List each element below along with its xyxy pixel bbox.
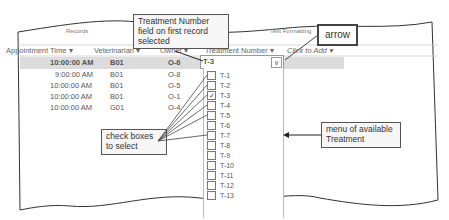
table-row[interactable]: 10:00:00 AM G01 O-4 bbox=[20, 102, 200, 114]
ribbon-group-text-formatting: Text Formatting bbox=[270, 28, 311, 34]
cell-owner: O-8 bbox=[168, 70, 181, 79]
treatment-number-combo[interactable]: T-3 ∨ bbox=[200, 55, 284, 69]
cell-veterinarian: B01 bbox=[110, 58, 124, 67]
list-item-label: T-3 bbox=[220, 92, 230, 99]
checkbox-checked[interactable]: ✓ bbox=[207, 91, 216, 100]
cell-veterinarian: G01 bbox=[110, 103, 124, 112]
checkbox[interactable] bbox=[207, 151, 216, 160]
access-datasheet-figure: Records Text Formatting Appointment Time… bbox=[0, 0, 449, 220]
list-item[interactable]: T-11 bbox=[207, 170, 234, 180]
list-item-label: T-6 bbox=[220, 122, 230, 129]
dropdown-arrow-icon[interactable]: ∨ bbox=[271, 57, 282, 68]
list-item[interactable]: ✓T-3 bbox=[207, 90, 230, 100]
callout-menu: menu of available Treatment bbox=[321, 122, 401, 148]
list-item-label: T-5 bbox=[220, 112, 230, 119]
list-item-label: T-2 bbox=[220, 82, 230, 89]
checkbox[interactable] bbox=[207, 101, 216, 110]
checkbox[interactable] bbox=[207, 81, 216, 90]
cell-owner: O-5 bbox=[168, 81, 181, 90]
cell-appointment-time: 10:00:00 AM bbox=[50, 81, 92, 90]
checkbox[interactable] bbox=[207, 141, 216, 150]
column-header-click-to-add[interactable]: Click to Add ▾ bbox=[287, 46, 333, 55]
cell-veterinarian: B01 bbox=[110, 70, 123, 79]
list-item-label: T-1 bbox=[220, 72, 230, 79]
list-item[interactable]: T-12 bbox=[207, 180, 234, 190]
treatment-menu-list[interactable]: T-1 T-2 ✓T-3 T-4 T-5 T-6 T-7 T-8 T-9 T-1… bbox=[203, 68, 284, 218]
list-item[interactable]: T-6 bbox=[207, 120, 230, 130]
checkbox[interactable] bbox=[207, 191, 216, 200]
list-item-label: T-13 bbox=[220, 192, 234, 199]
list-item[interactable]: T-10 bbox=[207, 160, 234, 170]
column-header-appointment-time[interactable]: Appointment Time ▾ bbox=[6, 46, 73, 55]
list-item-label: T-12 bbox=[220, 182, 234, 189]
list-item-label: T-10 bbox=[220, 162, 234, 169]
checkbox[interactable] bbox=[207, 121, 216, 130]
cell-owner: O-4 bbox=[168, 103, 181, 112]
callout-field-selected: Treatment Number field on first record s… bbox=[133, 14, 229, 49]
callout-arrow: arrow bbox=[317, 24, 358, 46]
list-item[interactable]: T-1 bbox=[207, 70, 230, 80]
cell-appointment-time: 10:00:00 AM bbox=[50, 92, 92, 101]
list-item[interactable]: T-13 bbox=[207, 190, 234, 200]
list-item-label: T-4 bbox=[220, 102, 230, 109]
list-item-label: T-7 bbox=[220, 132, 230, 139]
checkbox[interactable] bbox=[207, 171, 216, 180]
cell-owner: O-1 bbox=[168, 92, 181, 101]
list-item-label: T-9 bbox=[220, 152, 230, 159]
list-item[interactable]: T-5 bbox=[207, 110, 230, 120]
cell-appointment-time: 9:00:00 AM bbox=[55, 70, 93, 79]
ribbon-group-records: Records bbox=[66, 28, 88, 34]
checkbox[interactable] bbox=[207, 161, 216, 170]
list-item[interactable]: T-8 bbox=[207, 140, 230, 150]
checkbox[interactable] bbox=[207, 71, 216, 80]
click-to-add-cell[interactable] bbox=[284, 57, 344, 69]
checkbox[interactable] bbox=[207, 111, 216, 120]
cell-appointment-time: 10:00:00 AM bbox=[50, 58, 94, 67]
cell-appointment-time: 10:00:00 AM bbox=[50, 103, 92, 112]
callout-check-boxes: check boxes to select bbox=[101, 129, 167, 155]
list-item-label: T-11 bbox=[220, 172, 234, 179]
cell-veterinarian: B01 bbox=[110, 81, 123, 90]
checkbox[interactable] bbox=[207, 131, 216, 140]
cell-owner: O-6 bbox=[168, 58, 181, 67]
list-item[interactable]: T-9 bbox=[207, 150, 230, 160]
list-item-label: T-8 bbox=[220, 142, 230, 149]
checkbox[interactable] bbox=[207, 181, 216, 190]
treatment-number-value[interactable]: T-3 bbox=[203, 57, 214, 66]
cell-veterinarian: B01 bbox=[110, 92, 123, 101]
list-item[interactable]: T-7 bbox=[207, 130, 230, 140]
list-item[interactable]: T-2 bbox=[207, 80, 230, 90]
list-item[interactable]: T-4 bbox=[207, 100, 230, 110]
table-row[interactable]: 10:00:00 AM B01 O-6 bbox=[20, 57, 200, 69]
